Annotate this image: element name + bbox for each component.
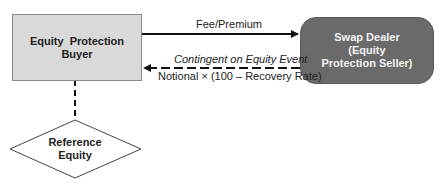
dealer-label-line3: Protection Seller) — [321, 57, 412, 70]
buyer-label-line1: Equity Protection — [30, 35, 124, 48]
buyer-label-line2: Buyer — [30, 48, 124, 61]
reference-label-line1: Reference — [35, 136, 115, 149]
notional-payment-label: Notional × (100 – Recovery Rate) — [158, 70, 322, 82]
dealer-label-line1: Swap Dealer — [321, 31, 412, 44]
dealer-label-line2: (Equity — [321, 44, 412, 57]
fee-premium-label: Fee/Premium — [196, 18, 262, 30]
reference-equity-label: Reference Equity — [35, 136, 115, 162]
equity-protection-buyer-node: Equity Protection Buyer — [12, 14, 142, 81]
reference-label-line2: Equity — [35, 149, 115, 162]
contingent-event-label: Contingent on Equity Event — [174, 53, 307, 65]
